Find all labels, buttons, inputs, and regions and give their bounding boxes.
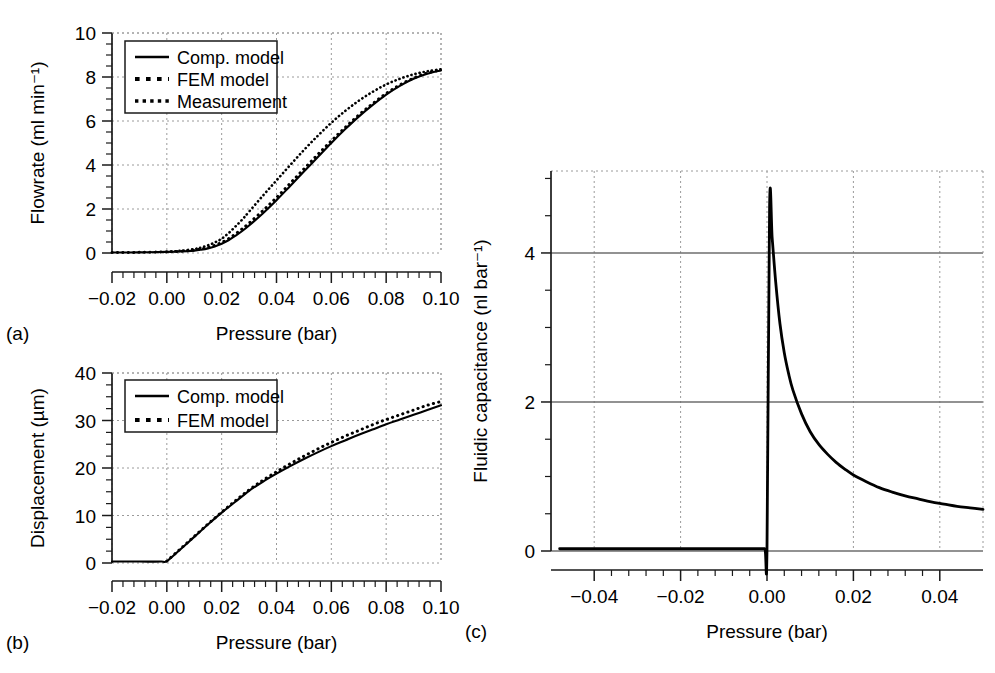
x-tick-label: 0.02 [203, 597, 240, 618]
x-tick-label: 0.06 [313, 288, 350, 309]
panel-letter: (b) [6, 632, 29, 653]
y-tick-label: 8 [85, 67, 96, 88]
x-tick-label: 0.00 [148, 288, 185, 309]
x-tick-label: 0.00 [148, 597, 185, 618]
x-tick-label: 0.04 [258, 597, 295, 618]
series-fluidic-capacitance [560, 188, 983, 574]
x-tick-label: −0.04 [570, 586, 619, 607]
legend-label: FEM model [177, 70, 269, 90]
data-series [560, 188, 983, 574]
y-tick-label: 0 [85, 243, 96, 264]
x-tick-label: 0.02 [203, 288, 240, 309]
panel-letter: (c) [465, 621, 487, 642]
y-axis-title: Displacement (µm) [27, 388, 48, 548]
axes [541, 171, 983, 581]
x-tick-label: 0.00 [749, 586, 786, 607]
chart-a-svg: −0.020.000.020.040.060.080.100246810Pres… [0, 0, 470, 345]
x-tick-label: 0.08 [368, 597, 405, 618]
x-tick-label: 0.02 [835, 586, 872, 607]
chart-c-svg: −0.04−0.020.000.020.04024Pressure (bar)F… [465, 120, 995, 673]
x-axis-title: Pressure (bar) [216, 632, 337, 653]
y-tick-label: 4 [524, 243, 535, 264]
y-tick-label: 40 [75, 363, 96, 384]
panel-a-flowrate: −0.020.000.020.040.060.080.100246810Pres… [0, 0, 470, 345]
panel-c-capacitance: −0.04−0.020.000.020.04024Pressure (bar)F… [465, 120, 995, 673]
y-tick-label: 2 [524, 392, 535, 413]
x-tick-label: 0.04 [258, 288, 295, 309]
y-tick-label: 20 [75, 458, 96, 479]
y-tick-label: 10 [75, 506, 96, 527]
y-tick-label: 10 [75, 23, 96, 44]
legend-label: Measurement [177, 92, 287, 112]
legend-label: FEM model [177, 411, 269, 431]
panel-b-displacement: −0.020.000.020.040.060.080.10010203040Pr… [0, 340, 470, 673]
figure-root: −0.020.000.020.040.060.080.100246810Pres… [0, 0, 995, 673]
y-tick-label: 30 [75, 411, 96, 432]
legend: Comp. modelFEM model [125, 380, 284, 432]
x-tick-label: 0.04 [921, 586, 958, 607]
x-tick-label: 0.10 [423, 597, 460, 618]
y-tick-label: 0 [524, 541, 535, 562]
axis-labels: −0.04−0.020.000.020.04024Pressure (bar)F… [465, 239, 959, 642]
x-tick-label: 0.10 [423, 288, 460, 309]
y-tick-label: 0 [85, 553, 96, 574]
y-tick-label: 2 [85, 199, 96, 220]
x-axis-title: Pressure (bar) [706, 621, 827, 642]
legend-label: Comp. model [177, 387, 284, 407]
chart-b-svg: −0.020.000.020.040.060.080.10010203040Pr… [0, 340, 470, 673]
x-tick-label: −0.02 [657, 586, 705, 607]
legend-label: Comp. model [177, 48, 284, 68]
x-tick-label: 0.06 [313, 597, 350, 618]
y-tick-label: 6 [85, 111, 96, 132]
x-tick-label: −0.02 [88, 288, 136, 309]
y-axis-title: Flowrate (ml min⁻¹) [27, 61, 48, 224]
x-tick-label: 0.08 [368, 288, 405, 309]
legend: Comp. modelFEM modelMeasurement [125, 41, 287, 113]
y-axis-title: Fluidic capacitance (nl bar⁻¹) [470, 239, 491, 482]
x-tick-label: −0.02 [88, 597, 136, 618]
y-tick-label: 4 [85, 155, 96, 176]
